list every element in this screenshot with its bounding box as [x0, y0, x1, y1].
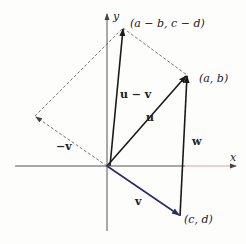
w-vector	[180, 76, 187, 216]
point-label-ab: (a, b)	[199, 72, 228, 85]
vector-label-w: w	[191, 135, 202, 148]
v-vector	[107, 166, 179, 215]
vector-label-neg-v: −v	[56, 140, 72, 153]
x-axis-label: x	[230, 151, 237, 164]
dashed-edge-top-to-ab	[123, 28, 187, 75]
point-label-cd: (c, d)	[184, 213, 213, 226]
vector-diagram: y x (a − b, c − d) (a, b) (c, d) u − v u…	[0, 0, 246, 244]
y-axis-label: y	[112, 10, 120, 23]
dashed-edge-neg-v-to-top	[35, 28, 123, 116]
point-label-amb-cmd: (a − b, c − d)	[130, 17, 205, 30]
vector-label-v: v	[134, 195, 142, 208]
diagram-canvas: y x (a − b, c − d) (a, b) (c, d) u − v u…	[0, 0, 246, 244]
vector-label-u-minus-v: u − v	[120, 88, 152, 101]
vector-label-u: u	[146, 111, 154, 124]
